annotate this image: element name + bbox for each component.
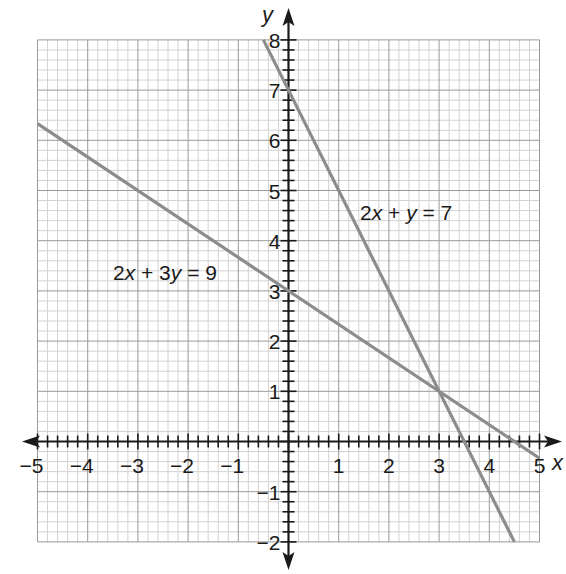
y-tick-label: 1 xyxy=(269,380,281,403)
y-tick-label: −2 xyxy=(257,531,281,554)
x-tick-label: 1 xyxy=(333,454,345,477)
y-tick-label: 5 xyxy=(269,180,281,203)
x-tick-label: 3 xyxy=(433,454,445,477)
x-tick-label: 5 xyxy=(534,454,546,477)
y-tick-label: 2 xyxy=(269,330,281,353)
x-tick-label: −1 xyxy=(220,454,244,477)
coordinate-plane: −5−4−3−2−112345−2−112345678 y x 2x + y =… xyxy=(0,0,566,574)
equation-label-2x-plus-3y-eq-9: 2x + 3y = 9 xyxy=(113,261,217,284)
y-tick-label: 4 xyxy=(269,230,281,253)
y-tick-label: 3 xyxy=(269,280,281,303)
y-tick-label: 6 xyxy=(269,129,281,152)
x-tick-label: −2 xyxy=(170,454,194,477)
equation-label-2x-plus-y-eq-7: 2x + y = 7 xyxy=(360,201,452,224)
y-axis-label: y xyxy=(260,2,275,27)
y-tick-label: 8 xyxy=(269,29,281,52)
x-tick-label: 2 xyxy=(383,454,395,477)
x-tick-label: −4 xyxy=(70,454,94,477)
y-tick-label: −1 xyxy=(257,481,281,504)
x-tick-label: 4 xyxy=(483,454,495,477)
y-tick-label: 7 xyxy=(269,79,281,102)
x-tick-label: −5 xyxy=(20,454,44,477)
x-axis-label: x xyxy=(551,450,564,475)
axes xyxy=(22,8,562,570)
x-tick-label: −3 xyxy=(120,454,144,477)
